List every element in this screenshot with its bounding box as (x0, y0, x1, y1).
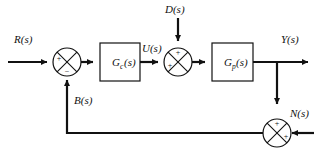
disturbance-junction-sign-top: + (176, 48, 181, 57)
label-output-signal: Y(s) (281, 33, 299, 46)
plant-block-label-arg: (s) (236, 56, 248, 69)
block-diagram-canvas: + − G c (s) + + G p (s) + + R(s) U(s) D(… (0, 0, 318, 155)
controller-block-label-base: G (112, 56, 120, 68)
block-diagram-svg: + − G c (s) + + G p (s) + + R(s) U(s) D(… (0, 0, 318, 155)
disturbance-junction-sign-left: + (168, 61, 173, 70)
plant-block-label-base: G (224, 56, 232, 68)
error-junction-sign-left: + (57, 54, 62, 63)
label-feedback-signal: B(s) (74, 94, 93, 107)
label-disturbance-signal: D(s) (164, 3, 185, 16)
controller-block-label-arg: (s) (124, 56, 136, 69)
error-junction-sign-bottom: − (65, 67, 70, 76)
label-noise-signal: N(s) (289, 107, 309, 120)
label-reference-signal: R(s) (13, 33, 33, 46)
noise-junction-sign-top: + (275, 119, 280, 128)
label-control-signal: U(s) (142, 42, 162, 55)
noise-junction-sign-right: + (284, 132, 289, 141)
